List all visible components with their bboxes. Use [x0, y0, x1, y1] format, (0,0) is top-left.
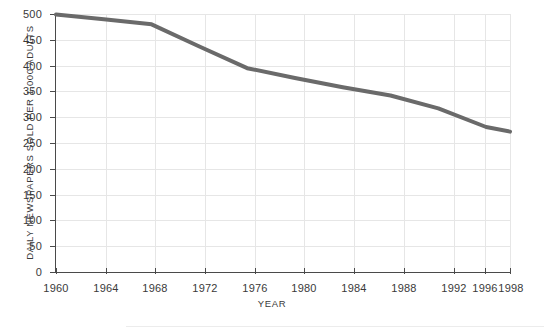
gridline-vertical: [205, 14, 206, 272]
gridline-vertical: [454, 14, 455, 272]
plot-area: [56, 14, 510, 272]
x-axis-label: 1968: [142, 282, 167, 294]
gridline-vertical: [304, 14, 305, 272]
gridline-vertical: [404, 14, 405, 272]
y-axis-tick: [50, 220, 56, 221]
gridline-horizontal: [56, 246, 510, 247]
x-axis-tick: [454, 268, 455, 274]
y-axis-label: 350: [0, 85, 42, 97]
x-axis-tick: [304, 268, 305, 274]
x-axis-label: 1972: [192, 282, 217, 294]
x-axis-tick: [205, 268, 206, 274]
y-axis-tick: [50, 117, 56, 118]
x-axis-label: 1960: [43, 282, 68, 294]
footer-divider: [126, 326, 544, 327]
x-axis-label: 1998: [498, 282, 523, 294]
y-axis-tick: [50, 169, 56, 170]
chart-title: [76, 0, 406, 1]
gridline-horizontal: [56, 14, 510, 15]
y-axis-tick: [50, 195, 56, 196]
gridline-horizontal: [56, 117, 510, 118]
y-axis-tick: [50, 14, 56, 15]
x-axis-tick: [106, 268, 107, 274]
gridline-horizontal: [56, 169, 510, 170]
x-axis-label: 1976: [242, 282, 267, 294]
y-axis-tick: [50, 143, 56, 144]
gridline-horizontal: [56, 143, 510, 144]
x-axis-label: 1996: [472, 282, 497, 294]
gridline-vertical: [485, 14, 486, 272]
gridline-vertical: [510, 14, 511, 272]
y-axis-label: 50: [0, 240, 42, 252]
x-axis-label: 1988: [391, 282, 416, 294]
x-axis-tick: [255, 268, 256, 274]
x-axis-tick: [56, 268, 57, 274]
y-axis-label: 200: [0, 163, 42, 175]
gridline-horizontal: [56, 220, 510, 221]
gridline-horizontal: [56, 195, 510, 196]
x-axis-title: YEAR: [0, 298, 544, 309]
gridline-horizontal: [56, 66, 510, 67]
gridline-horizontal: [56, 40, 510, 41]
y-axis-label: 300: [0, 111, 42, 123]
x-axis-label: 1980: [291, 282, 316, 294]
y-axis-label: 250: [0, 137, 42, 149]
y-axis-label: 500: [0, 8, 42, 20]
x-axis-tick: [155, 268, 156, 274]
x-axis-tick: [404, 268, 405, 274]
y-axis-label: 150: [0, 189, 42, 201]
x-axis-tick: [354, 268, 355, 274]
y-axis-title: DAILY NEWSPAPERS SOLD PER 1,000 ADULTS: [24, 18, 35, 268]
x-axis-tick: [485, 268, 486, 274]
y-axis-tick: [50, 40, 56, 41]
gridline-vertical: [155, 14, 156, 272]
x-axis-label: 1964: [93, 282, 118, 294]
y-axis-label: 400: [0, 60, 42, 72]
x-axis-label: 1984: [341, 282, 366, 294]
x-axis-tick: [510, 268, 511, 274]
y-axis-tick: [50, 91, 56, 92]
y-axis-tick: [50, 66, 56, 67]
x-axis-line: [55, 272, 511, 273]
chart-figure: 500 450 400 350 300 250 200 150 100 50 0…: [0, 0, 544, 336]
gridline-vertical: [255, 14, 256, 272]
y-axis-label: 100: [0, 214, 42, 226]
gridline-vertical: [354, 14, 355, 272]
gridline-horizontal: [56, 91, 510, 92]
y-axis-label: 0: [0, 266, 42, 278]
y-axis-label: 450: [0, 34, 42, 46]
y-axis-tick: [50, 246, 56, 247]
gridline-vertical: [106, 14, 107, 272]
x-axis-label: 1992: [441, 282, 466, 294]
